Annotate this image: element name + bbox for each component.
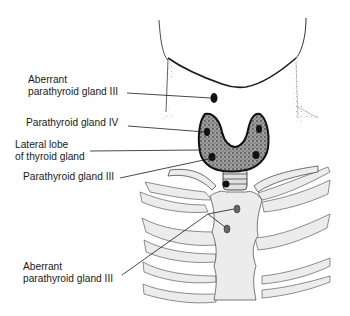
parathyroid-gland-iii-right (253, 151, 260, 159)
parathyroid-gland-iv-right (256, 125, 262, 133)
aberrant-parathyroid-gland-thorax-1 (234, 205, 240, 213)
thyroid-gland (199, 114, 269, 172)
jawline (168, 58, 296, 87)
label-line: Lateral lobe (15, 139, 85, 151)
diagram-canvas: Aberrant parathyroid gland III Parathyro… (0, 0, 350, 316)
label-line: parathyroid gland III (28, 86, 118, 98)
aberrant-parathyroid-gland-thorax-2 (224, 225, 230, 233)
label-line: Parathyroid gland IV (26, 117, 118, 129)
label-line: Parathyroid gland III (23, 171, 114, 183)
label-line: of thyroid gland (15, 151, 85, 163)
label-parathyroid-iv: Parathyroid gland IV (26, 117, 118, 129)
parathyroid-gland-iii-trachea (223, 181, 230, 188)
label-parathyroid-iii: Parathyroid gland III (23, 171, 114, 183)
label-lateral-lobe: Lateral lobe of thyroid gland (15, 139, 85, 163)
label-aberrant-parathyroid-iii-upper: Aberrant parathyroid gland III (28, 74, 118, 98)
label-line: parathyroid gland III (23, 273, 113, 285)
label-line: Aberrant (28, 74, 118, 86)
neck-outline (159, 18, 320, 124)
label-line: Aberrant (23, 261, 113, 273)
aberrant-parathyroid-gland-upper (211, 93, 218, 103)
label-aberrant-parathyroid-iii-lower: Aberrant parathyroid gland III (23, 261, 113, 285)
parathyroid-gland-iii-left (209, 153, 216, 161)
